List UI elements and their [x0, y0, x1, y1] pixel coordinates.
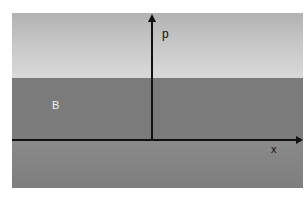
x-axis-arrowhead-icon [296, 136, 303, 144]
x-axis-label: x [271, 143, 277, 155]
axes [0, 0, 308, 197]
p-axis-label: p [162, 27, 169, 41]
region-b-label: B [52, 99, 59, 111]
p-axis-arrowhead-icon [148, 14, 156, 22]
